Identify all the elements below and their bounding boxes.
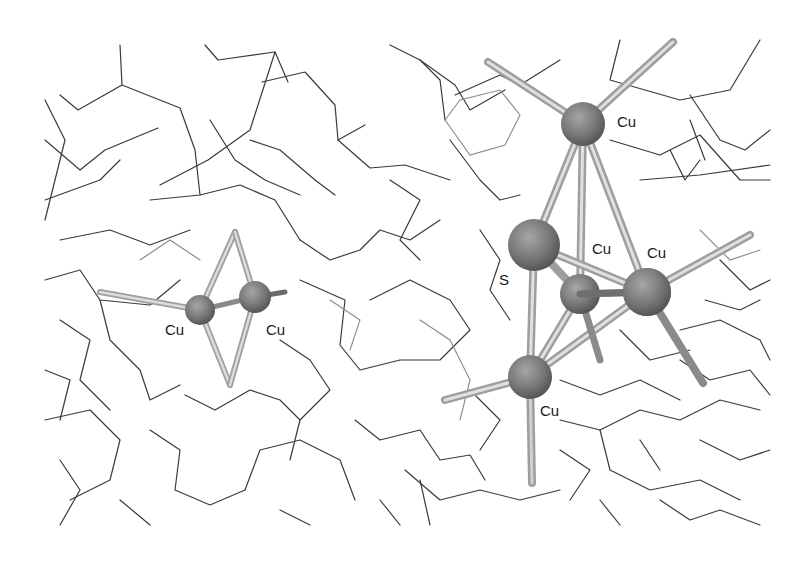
molecular-structure-figure bbox=[0, 0, 805, 563]
cu-atom-dinuclear-left bbox=[185, 295, 215, 325]
label-cu-cluster-bottom: Cu bbox=[540, 403, 559, 418]
label-sulfur: S bbox=[499, 272, 509, 287]
s-atom bbox=[508, 219, 560, 271]
cu-atom-dinuclear-right bbox=[239, 281, 271, 313]
label-cu-dinuclear-right: Cu bbox=[266, 322, 285, 337]
cu-atom-cluster-bottom bbox=[508, 355, 552, 399]
label-cu-cluster-right: Cu bbox=[647, 245, 666, 260]
label-cu-dinuclear-left: Cu bbox=[165, 322, 184, 337]
label-cu-cluster-top: Cu bbox=[617, 114, 636, 129]
cu-atom-cluster-top bbox=[561, 102, 605, 146]
label-cu-cluster-middle: Cu bbox=[592, 241, 611, 256]
bonds bbox=[100, 42, 750, 483]
